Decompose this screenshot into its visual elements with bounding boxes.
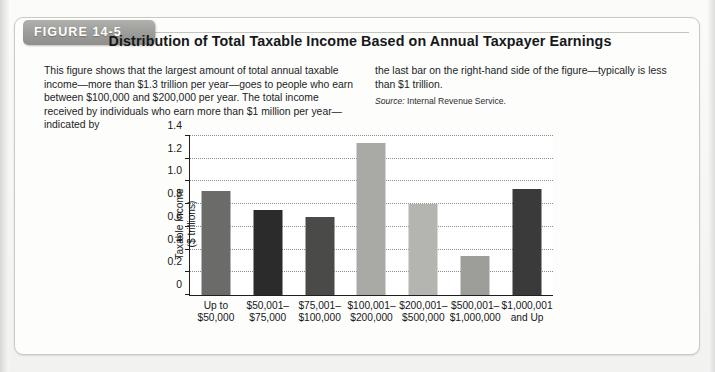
bar-chart: Taxable Income ($ trillions) 00.20.40.60… — [137, 128, 564, 328]
bar — [409, 204, 438, 295]
figure-source-word: Source: — [375, 96, 405, 106]
y-axis-tick-label: 0.2 — [168, 256, 182, 267]
page-edge-right — [708, 0, 715, 372]
plot-area: Taxable Income ($ trillions) 00.20.40.60… — [189, 136, 553, 296]
bar-group: $500,001–$1,000,000 — [449, 136, 501, 295]
figure-caption-left: This figure shows that the largest amoun… — [44, 64, 359, 132]
y-axis-tick-label: 1.2 — [168, 142, 182, 153]
y-axis-tick-label: 0.6 — [168, 210, 182, 221]
bar-group: $75,001–$100,000 — [294, 136, 346, 295]
bar-group: $1,000,001and Up — [501, 136, 553, 295]
y-axis-tick-label: 0.8 — [168, 188, 182, 199]
x-axis-tick-label: $75,001–$100,000 — [298, 300, 341, 324]
y-axis-title-line1: Taxable Income — [174, 188, 185, 259]
bar-group: Up to$50,000 — [190, 136, 242, 295]
x-axis-tick-label: $50,001–$75,000 — [247, 300, 290, 324]
x-axis-tick-label: $200,001–$500,000 — [399, 300, 447, 324]
bar — [461, 256, 490, 295]
x-axis-tick-label: $1,000,001and Up — [502, 300, 553, 324]
x-axis-tick-label: $500,001–$1,000,000 — [450, 300, 501, 324]
figure-source: Source: Internal Revenue Service. — [375, 95, 685, 109]
x-axis-tick-label: $100,001–$200,000 — [347, 300, 395, 324]
bar — [253, 210, 282, 295]
figure-caption-right: the last bar on the right-hand side of t… — [375, 64, 685, 91]
bar — [513, 189, 542, 295]
figure-title: Distribution of Total Taxable Income Bas… — [60, 33, 660, 49]
bars: Up to$50,000$50,001–$75,000$75,001–$100,… — [190, 136, 553, 295]
figure-root: FIGURE 14-5 Distribution of Total Taxabl… — [0, 0, 715, 372]
bar-group: $200,001–$500,000 — [397, 136, 449, 295]
y-axis-tick-label: 1.4 — [168, 120, 182, 131]
bar — [201, 191, 230, 295]
bar-group: $50,001–$75,000 — [242, 136, 294, 295]
x-axis-tick-label: Up to$50,000 — [198, 300, 235, 324]
y-axis-tick-label: 0.4 — [168, 233, 182, 244]
page-edge-left — [0, 0, 9, 372]
figure-caption-right-wrapper: the last bar on the right-hand side of t… — [375, 64, 685, 109]
bar — [305, 217, 334, 295]
y-axis-tick-label: 1.0 — [168, 165, 182, 176]
figure-source-text: Internal Revenue Service. — [405, 96, 506, 106]
y-axis-tick-label: 0 — [176, 279, 182, 290]
bar — [357, 143, 386, 295]
bar-group: $100,001–$200,000 — [346, 136, 398, 295]
